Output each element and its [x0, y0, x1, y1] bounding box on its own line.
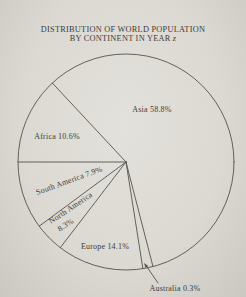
book-page: DISTRIBUTION OF WORLD POPULATION BY CONT… — [0, 0, 246, 297]
slice-label-asia: Asia 58.8% — [132, 105, 171, 114]
slice-boundary-line — [126, 162, 143, 269]
pie-geometry — [18, 54, 234, 270]
pie-slice-labels: Asia 58.8% Africa 10.6% South America 7.… — [34, 105, 200, 293]
slice-boundary-line — [126, 162, 153, 267]
australia-leader-line — [147, 267, 158, 283]
slice-label-africa: Africa 10.6% — [34, 132, 80, 141]
slice-label-europe: Europe 14.1% — [81, 242, 129, 251]
slice-boundary-line — [52, 83, 126, 162]
pie-chart: Asia 58.8% Africa 10.6% South America 7.… — [0, 0, 246, 297]
slice-label-south-america: South America 7.9% — [35, 164, 104, 196]
slice-label-australia: Australia 0.3% — [150, 284, 201, 293]
